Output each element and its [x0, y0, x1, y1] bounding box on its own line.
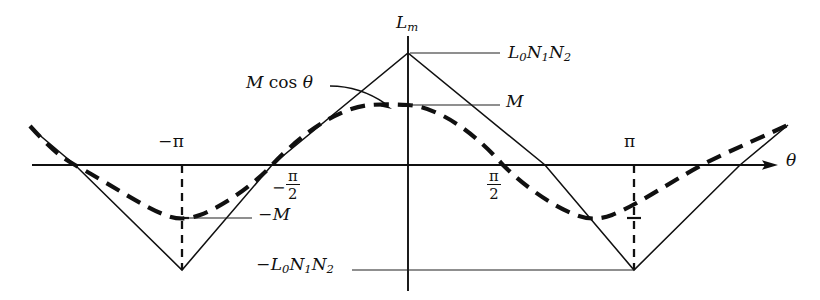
- label-triangle-peak: L0N1N2: [508, 44, 571, 64]
- label-peak-amplitude: Lm: [396, 14, 418, 34]
- label-pi-2-num: π: [487, 168, 501, 185]
- label-pi-2-den: 2: [487, 185, 501, 201]
- label-neg-pi-value: π: [173, 131, 184, 151]
- x-axis-group: [32, 160, 778, 170]
- label-l0-sub: 0: [519, 50, 526, 64]
- label-neg-n1-base: N: [289, 254, 304, 274]
- fraction-pi-over-2: π2: [487, 168, 501, 201]
- label-cosine-peak: M: [506, 93, 523, 110]
- label-m-base: M: [506, 91, 523, 111]
- label-neg-n2-sub: 2: [327, 262, 334, 276]
- label-neg-n1-sub: 1: [304, 262, 311, 276]
- label-peak-amplitude-base: L: [396, 12, 407, 32]
- diagram-canvas: [0, 0, 820, 300]
- label-cosine-curve: M cos θ: [246, 74, 313, 91]
- label-n2-sub: 2: [564, 50, 571, 64]
- label-pi-value: π: [624, 131, 635, 151]
- cosine-wave-curve: [30, 104, 790, 218]
- triangle-wave-curve: [30, 53, 788, 270]
- label-neg-pi-2-num: π: [286, 168, 300, 185]
- label-tick-pi: π: [624, 133, 635, 150]
- label-n1-base: N: [527, 42, 542, 62]
- fraction-neg-pi-over-2: π2: [286, 168, 300, 201]
- label-neg-n2-base: N: [312, 254, 327, 274]
- label-neg-pi-sign: −: [158, 131, 173, 151]
- label-neg-l0-base: L: [271, 254, 282, 274]
- label-mcos-cos: cos: [269, 72, 297, 92]
- label-neg-l0-sign: −: [256, 254, 271, 274]
- label-n2-base: N: [549, 42, 564, 62]
- label-triangle-trough: −L0N1N2: [256, 256, 334, 276]
- label-tick-neg-pi-over-2: −π2: [272, 168, 300, 201]
- label-tick-neg-pi: −π: [158, 133, 184, 150]
- label-mcos-theta: θ: [303, 72, 313, 92]
- figure-container: Lm L0N1N2 M cos θ M −π −π2 π2 π θ −M −L0…: [0, 0, 820, 300]
- label-theta-value: θ: [786, 150, 796, 170]
- label-neg-m-sign: −: [258, 204, 273, 224]
- label-l0-base: L: [508, 42, 519, 62]
- label-cosine-trough: −M: [258, 206, 290, 223]
- label-peak-amplitude-sub: m: [407, 20, 418, 34]
- label-x-axis-theta: θ: [786, 152, 796, 169]
- label-neg-pi-2-sign: −: [272, 178, 286, 197]
- label-n1-sub: 1: [542, 50, 549, 64]
- label-neg-pi-2-den: 2: [286, 185, 300, 201]
- label-tick-pi-over-2: π2: [487, 168, 501, 201]
- label-mcos-m: M: [246, 72, 263, 92]
- label-neg-m-base: M: [273, 204, 290, 224]
